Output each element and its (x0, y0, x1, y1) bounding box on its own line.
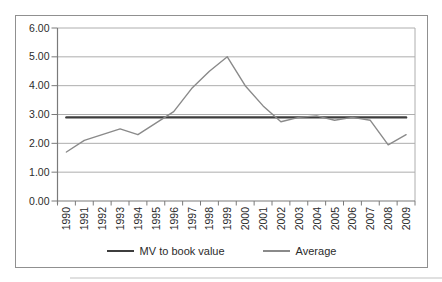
x-axis-label: 2008 (382, 207, 394, 231)
x-axis-label: 1996 (168, 207, 180, 231)
y-axis-label: 5.00 (29, 50, 50, 62)
x-axis-label: 2009 (400, 207, 412, 231)
x-axis-label: 1990 (60, 207, 72, 231)
y-axis-label: 2.00 (29, 137, 50, 149)
plot-area: 0.001.002.003.004.005.006.00199019911992… (0, 0, 442, 282)
x-axis-label: 1991 (78, 207, 90, 231)
y-axis-label: 0.00 (29, 195, 50, 207)
x-axis-label: 1998 (203, 207, 215, 231)
series-line-average (66, 57, 406, 152)
mv-to-book-value-line-swatch-icon (107, 250, 134, 252)
x-axis-label: 1995 (150, 207, 162, 231)
average-line-swatch-icon (263, 250, 290, 251)
x-axis-label: 1993 (114, 207, 126, 231)
x-axis-label: 2004 (311, 207, 323, 231)
x-axis-label: 2002 (275, 207, 287, 231)
x-axis-label: 2005 (329, 207, 341, 231)
legend: MV to book value Average (16, 245, 427, 257)
chart-figure: 0.001.002.003.004.005.006.00199019911992… (0, 0, 442, 282)
y-axis-label: 6.00 (29, 22, 50, 34)
x-axis-label: 2007 (364, 207, 376, 231)
x-axis-label: 1999 (221, 207, 233, 231)
y-axis-label: 4.00 (29, 79, 50, 91)
x-axis-label: 1994 (132, 207, 144, 231)
scan-artifact-line (70, 277, 442, 279)
legend-item-mv-to-book-value: MV to book value (107, 245, 225, 257)
legend-label-mv-to-book-value: MV to book value (140, 245, 225, 257)
x-axis-label: 2000 (239, 207, 251, 231)
x-axis-label: 1992 (96, 207, 108, 231)
y-axis-label: 3.00 (29, 108, 50, 120)
x-axis-label: 2001 (257, 207, 269, 231)
x-axis-label: 2003 (293, 207, 305, 231)
x-axis-label: 1997 (186, 207, 198, 231)
x-axis-label: 2006 (346, 207, 358, 231)
legend-item-average: Average (263, 245, 337, 257)
y-axis-label: 1.00 (29, 166, 50, 178)
legend-label-average: Average (296, 245, 337, 257)
